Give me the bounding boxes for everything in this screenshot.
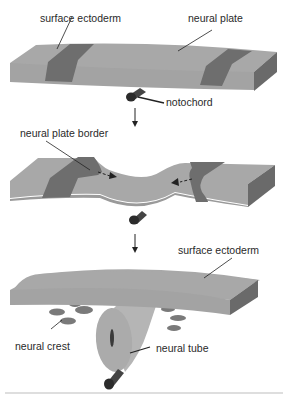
down-arrow-2 xyxy=(132,234,138,253)
stage-2-folding: neural plate border xyxy=(10,127,275,225)
label-neural-plate: neural plate xyxy=(188,12,243,24)
label-neural-crest: neural crest xyxy=(15,340,70,352)
stage-1-neural-plate: surface ectoderm neural plate notochord xyxy=(10,12,277,108)
notochord xyxy=(129,211,147,225)
label-notochord: notochord xyxy=(166,96,213,108)
label-surface-ectoderm: surface ectoderm xyxy=(178,244,259,256)
down-arrow-1 xyxy=(132,108,138,127)
label-neural-plate-border: neural plate border xyxy=(20,127,109,139)
label-neural-tube: neural tube xyxy=(156,342,209,354)
stage-3-neural-tube: surface ectoderm neural crest neural tub… xyxy=(10,244,260,390)
neural-tube-diagram: surface ectoderm neural plate notochord xyxy=(0,0,288,399)
notochord xyxy=(126,88,146,102)
leader-neural-crest xyxy=(51,320,62,329)
label-surface-ectoderm: surface ectoderm xyxy=(40,12,121,24)
neural-tube-lumen xyxy=(110,329,114,347)
notochord xyxy=(104,369,124,390)
leader-notochord xyxy=(138,97,164,103)
